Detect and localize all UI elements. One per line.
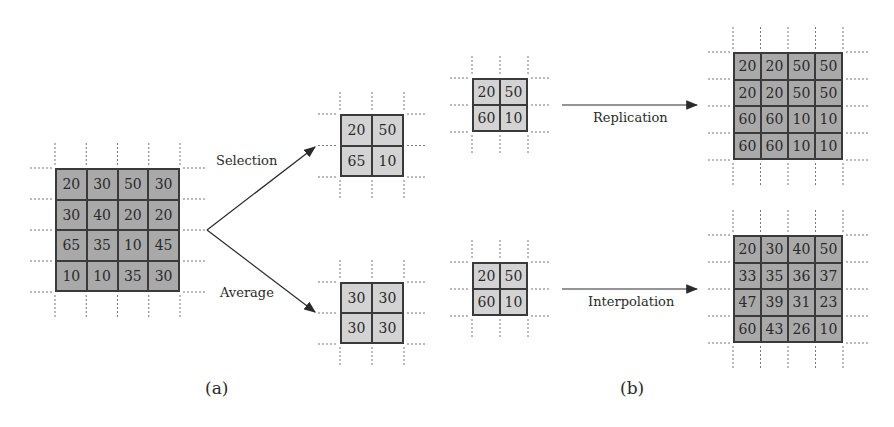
grid-cell: 20 xyxy=(56,169,87,200)
grid-cell: 50 xyxy=(500,263,527,289)
grid-cell: 10 xyxy=(118,230,149,261)
grid-cell: 30 xyxy=(56,200,87,231)
grid-cell: 10 xyxy=(815,133,842,160)
grid-cell: 43 xyxy=(761,316,788,343)
grid-cell: 10 xyxy=(788,133,815,160)
grid-cell: 10 xyxy=(500,289,527,315)
grid-cell: 60 xyxy=(473,289,500,315)
replication-input-grid: 20506010 xyxy=(472,78,528,132)
grid-cell: 65 xyxy=(341,146,372,177)
grid-cell: 50 xyxy=(815,53,842,80)
grid-cell: 30 xyxy=(372,283,403,313)
grid-cell: 20 xyxy=(118,200,149,231)
grid-cell: 60 xyxy=(734,106,761,133)
grid-cell: 10 xyxy=(815,316,842,343)
grid-cell: 20 xyxy=(734,80,761,107)
interpolation-label: Interpolation xyxy=(588,294,674,309)
grid-cell: 50 xyxy=(500,79,527,105)
grid-cell: 50 xyxy=(815,80,842,107)
grid-cell: 47 xyxy=(734,289,761,316)
grid-cell: 50 xyxy=(788,80,815,107)
grid-cell: 31 xyxy=(788,289,815,316)
replication-output-grid: 20205050202050506060101060601010 xyxy=(733,52,843,160)
grid-cell: 20 xyxy=(734,236,761,263)
average-grid-2x2: 30303030 xyxy=(340,282,404,344)
grid-cell: 10 xyxy=(372,146,403,177)
grid-cell: 10 xyxy=(815,106,842,133)
grid-cell: 50 xyxy=(118,169,149,200)
caption-a: (a) xyxy=(205,378,228,398)
grid-cell: 36 xyxy=(788,263,815,290)
grid-cell: 30 xyxy=(148,261,179,292)
grid-cell: 20 xyxy=(148,200,179,231)
grid-cell: 20 xyxy=(734,53,761,80)
grid-cell: 39 xyxy=(761,289,788,316)
grid-cell: 20 xyxy=(761,80,788,107)
grid-cell: 50 xyxy=(788,53,815,80)
grid-cell: 26 xyxy=(788,316,815,343)
grid-cell: 30 xyxy=(87,169,118,200)
grid-cell: 20 xyxy=(341,115,372,146)
grid-cell: 30 xyxy=(341,313,372,343)
grid-cell: 30 xyxy=(341,283,372,313)
grid-cell: 10 xyxy=(788,106,815,133)
caption-b: (b) xyxy=(620,378,644,398)
grid-cell: 35 xyxy=(761,263,788,290)
grid-cell: 10 xyxy=(87,261,118,292)
grid-cell: 20 xyxy=(473,79,500,105)
grid-cell: 23 xyxy=(815,289,842,316)
average-label: Average xyxy=(220,285,274,300)
grid-cell: 20 xyxy=(473,263,500,289)
grid-cell: 60 xyxy=(734,133,761,160)
selection-grid-2x2: 20506510 xyxy=(340,114,404,177)
grid-cell: 20 xyxy=(761,53,788,80)
grid-cell: 60 xyxy=(761,133,788,160)
grid-cell: 60 xyxy=(734,316,761,343)
input-grid-4x4: 20305030304020206535104510103530 xyxy=(55,168,180,292)
grid-cell: 10 xyxy=(56,261,87,292)
grid-cell: 60 xyxy=(761,106,788,133)
replication-label: Replication xyxy=(593,110,668,125)
grid-cell: 35 xyxy=(87,230,118,261)
grid-cell: 50 xyxy=(372,115,403,146)
grid-cell: 33 xyxy=(734,263,761,290)
grid-cell: 65 xyxy=(56,230,87,261)
selection-label: Selection xyxy=(216,153,277,168)
interpolation-input-grid: 20506010 xyxy=(472,262,528,316)
grid-cell: 10 xyxy=(500,105,527,131)
grid-cell: 35 xyxy=(118,261,149,292)
grid-cell: 40 xyxy=(788,236,815,263)
grid-cell: 30 xyxy=(148,169,179,200)
grid-cell: 60 xyxy=(473,105,500,131)
grid-cell: 50 xyxy=(815,236,842,263)
grid-cell: 40 xyxy=(87,200,118,231)
grid-cell: 37 xyxy=(815,263,842,290)
grid-cell: 30 xyxy=(761,236,788,263)
grid-cell: 30 xyxy=(372,313,403,343)
interpolation-output-grid: 20304050333536374739312360432610 xyxy=(733,235,843,343)
grid-cell: 45 xyxy=(148,230,179,261)
